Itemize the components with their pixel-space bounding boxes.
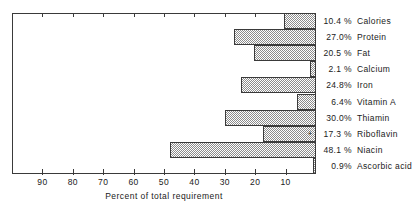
x-tick-label: 10 (280, 177, 290, 187)
x-tick-label: 20 (250, 177, 260, 187)
bar-value-label: 2.1 % (318, 64, 352, 74)
bar-chart: 908070605040302010 + 10.4 %Calories27.0%… (0, 0, 420, 210)
bar-niacin (170, 142, 316, 158)
bar-thiamin (225, 110, 316, 126)
bar-category-label: Riboflavin (357, 129, 398, 139)
value-label-row: 48.1 %Niacin (318, 142, 420, 158)
bar-category-label: Vitamin A (357, 97, 396, 107)
bar-category-label: Ascorbic acid (357, 161, 412, 171)
value-label-row: 24.8%Iron (318, 77, 420, 93)
value-label-row: 20.5 %Fat (318, 45, 420, 61)
bar-iron (241, 77, 316, 93)
bar-value-label: 24.8% (318, 80, 352, 90)
bar-calories (284, 13, 316, 29)
x-tick-label: 70 (98, 177, 108, 187)
bar-fat (254, 45, 316, 61)
bar-value-label: 20.5 % (318, 48, 352, 58)
bar-ascorbic-acid (313, 158, 316, 174)
bars-group: + (12, 13, 316, 174)
bar-row (12, 142, 316, 158)
bar-row (12, 13, 316, 29)
x-tick-label: 90 (37, 177, 47, 187)
bar-row (12, 45, 316, 61)
bar-row (12, 110, 316, 126)
value-label-list: 10.4 %Calories27.0%Protein20.5 %Fat2.1 %… (318, 13, 420, 174)
value-label-row: 30.0%Thiamin (318, 110, 420, 126)
value-label-row: 6.4%Vitamin A (318, 94, 420, 110)
x-tick-label: 60 (128, 177, 138, 187)
bar-value-label: 17.3 % (318, 129, 352, 139)
x-tick-label: 40 (189, 177, 199, 187)
value-label-row: 17.3 %Riboflavin (318, 126, 420, 142)
bar-value-label: 30.0% (318, 113, 352, 123)
value-label-row: 0.9%Ascorbic acid (318, 158, 420, 174)
value-label-row: 2.1 %Calcium (318, 61, 420, 77)
value-label-row: 10.4 %Calories (318, 13, 420, 29)
bar-row (12, 158, 316, 174)
x-tick-label: 50 (159, 177, 169, 187)
bar-category-label: Thiamin (357, 113, 390, 123)
bar-category-label: Iron (357, 80, 373, 90)
bar-value-label: 0.9% (318, 161, 352, 171)
bar-vitamin-a (297, 94, 316, 110)
value-label-row: 27.0%Protein (318, 29, 420, 45)
bar-value-label: 10.4 % (318, 16, 352, 26)
x-axis-title: Percent of total requirement (12, 191, 316, 201)
bar-value-label: 48.1 % (318, 145, 352, 155)
bar-row (12, 61, 316, 77)
bar-category-label: Fat (357, 48, 370, 58)
bar-category-label: Calories (357, 16, 391, 26)
bar-protein (234, 29, 316, 45)
x-tick-label: 80 (68, 177, 78, 187)
bar-row (12, 29, 316, 45)
bar-category-label: Calcium (357, 64, 390, 74)
bar-category-label: Protein (357, 32, 386, 42)
bar-annotation-plus: + (308, 130, 312, 137)
bar-row (12, 77, 316, 93)
bar-row: + (12, 126, 316, 142)
bar-value-label: 27.0% (318, 32, 352, 42)
bar-category-label: Niacin (357, 145, 383, 155)
bar-calcium (310, 61, 316, 77)
bar-row (12, 94, 316, 110)
bar-value-label: 6.4% (318, 97, 352, 107)
x-tick-label: 30 (220, 177, 230, 187)
